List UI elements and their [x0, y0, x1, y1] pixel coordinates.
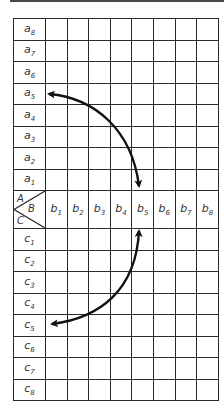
grid-cell: [153, 379, 175, 401]
a-row: a8: [14, 19, 219, 41]
grid-cell: [67, 83, 89, 105]
c_rows-label: c3: [14, 272, 46, 294]
grid-cell: [132, 19, 154, 41]
grid-cell: [89, 105, 111, 127]
label-subscript: 8: [31, 29, 35, 37]
grid-cell: [110, 19, 132, 41]
grid-cell: [89, 272, 111, 294]
grid-cell: [153, 62, 175, 84]
grid-cell: [46, 379, 68, 401]
grid-cell: [175, 229, 197, 251]
label-subscript: 1: [31, 179, 35, 187]
grid-cell: [110, 148, 132, 170]
grid-cell: [197, 62, 219, 84]
grid-cell: [67, 272, 89, 294]
grid-cell: [89, 19, 111, 41]
grid-cell: [197, 250, 219, 272]
grid-cell: [89, 315, 111, 337]
label-base: a: [24, 172, 31, 185]
grid-cell: [132, 126, 154, 148]
c-row: c5: [14, 315, 219, 337]
grid-cell: [175, 315, 197, 337]
grid-cell: [132, 293, 154, 315]
grid-cell: [67, 293, 89, 315]
grid-cell: [67, 126, 89, 148]
grid-cell: [110, 272, 132, 294]
grid-cell: [132, 148, 154, 170]
a_rows-label: a5: [14, 83, 46, 105]
label-base: a: [24, 65, 31, 78]
c_rows-label: c4: [14, 293, 46, 315]
grid-cell: [153, 250, 175, 272]
label-subscript: 5: [144, 209, 148, 217]
a-row: a7: [14, 40, 219, 62]
grid-cell: [153, 315, 175, 337]
b-col-label: b8: [197, 191, 219, 229]
c-row: c7: [14, 358, 219, 380]
grid-cell: [110, 358, 132, 380]
grid-cell: [46, 169, 68, 191]
grid-cell: [46, 293, 68, 315]
grid-cell: [175, 336, 197, 358]
a_rows-label: a4: [14, 105, 46, 127]
label-base: a: [24, 86, 31, 99]
grid-cell: [110, 336, 132, 358]
grid-cell: [89, 336, 111, 358]
grid-cell: [197, 40, 219, 62]
label-subscript: 4: [31, 115, 35, 123]
grid-cell: [175, 105, 197, 127]
grid-cell: [132, 40, 154, 62]
grid-cell: [132, 229, 154, 251]
grid-cell: [46, 358, 68, 380]
grid-cell: [153, 83, 175, 105]
grid-cell: [46, 105, 68, 127]
grid-cell: [197, 105, 219, 127]
label-base: a: [24, 129, 31, 142]
grid-cell: [89, 229, 111, 251]
a_rows-label: a1: [14, 169, 46, 191]
a-row: a5: [14, 83, 219, 105]
grid-cell: [175, 293, 197, 315]
grid-cell: [132, 272, 154, 294]
a-row: a3: [14, 126, 219, 148]
label-subscript: 7: [30, 368, 34, 376]
a-row: a1: [14, 169, 219, 191]
grid-cell: [153, 169, 175, 191]
grid-cell: [153, 105, 175, 127]
label-subscript: 2: [31, 158, 35, 166]
grid-cell: [46, 336, 68, 358]
grid-cell: [132, 105, 154, 127]
grid-cell: [175, 40, 197, 62]
c_rows-label: c5: [14, 315, 46, 337]
grid-cell: [110, 379, 132, 401]
corner-label-c: C: [17, 215, 24, 226]
grid-cell: [132, 379, 154, 401]
label-subscript: 2: [79, 209, 83, 217]
c_rows-label: c2: [14, 250, 46, 272]
grid-cell: [197, 169, 219, 191]
grid-cell: [67, 250, 89, 272]
grid-cell: [46, 62, 68, 84]
grid-cell: [89, 358, 111, 380]
corner-cell: ABC: [14, 191, 46, 229]
c_rows-label: c6: [14, 336, 46, 358]
grid-cell: [89, 126, 111, 148]
grid-cell: [67, 62, 89, 84]
b-col-label: b4: [110, 191, 132, 229]
grid-cell: [153, 229, 175, 251]
a-row: a2: [14, 148, 219, 170]
grid-cell: [67, 358, 89, 380]
grid-cell: [89, 62, 111, 84]
label-base: b: [159, 202, 166, 215]
grid-cell: [110, 40, 132, 62]
grid-cell: [110, 105, 132, 127]
a-row: a4: [14, 105, 219, 127]
label-subscript: 8: [30, 389, 34, 397]
b-col-label: b2: [67, 191, 89, 229]
grid-cell: [46, 83, 68, 105]
grid-cell: [197, 336, 219, 358]
label-subscript: 4: [122, 209, 126, 217]
corner-label-b: B: [28, 203, 35, 214]
grid-cell: [46, 148, 68, 170]
label-base: b: [137, 202, 144, 215]
